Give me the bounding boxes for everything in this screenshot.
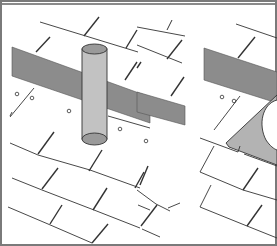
illustration-canvas <box>0 0 277 246</box>
roof-illustration <box>0 0 277 246</box>
frame-border <box>1 1 276 245</box>
vent-pipe <box>82 44 107 145</box>
